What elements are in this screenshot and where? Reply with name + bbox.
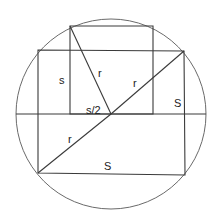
radius-to-square-corner (70, 26, 111, 114)
labels: srs/2rSrS (59, 67, 181, 172)
radius-segments (38, 26, 184, 173)
label-r-lower: r (68, 133, 72, 145)
label-r-upper: r (133, 77, 137, 89)
diagonal-radius-lower (38, 114, 111, 173)
label-S-bottom: S (104, 160, 111, 172)
label-s: s (59, 74, 65, 86)
small-square (70, 26, 153, 114)
label-S-right: S (174, 97, 181, 109)
label-r-square: r (98, 67, 102, 79)
geometry-diagram: srs/2rSrS (0, 0, 215, 224)
label-s-half: s/2 (86, 104, 101, 116)
